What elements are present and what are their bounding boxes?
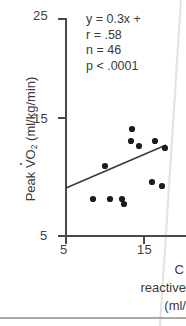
scatter-plot-figure: 25 15 5 5 15 y = 0.3x + r = .58 n = 46 p… — [0, 0, 186, 326]
data-point — [152, 138, 158, 144]
x-axis-title-line-3: (ml/ — [0, 298, 186, 313]
data-point — [128, 138, 134, 144]
page-crease-artifact — [160, 0, 181, 326]
data-point — [102, 163, 108, 169]
annotation-pvalue: p < .0001 — [86, 59, 141, 75]
data-point — [136, 143, 142, 149]
data-point — [162, 145, 168, 151]
y-axis-tick-label-5: 5 — [40, 228, 48, 243]
annotation-sample-size: n = 46 — [86, 43, 141, 59]
annotation-equation: y = 0.3x + — [86, 12, 141, 28]
x-axis-title-line-2: reactive — [0, 280, 186, 295]
data-point — [159, 183, 165, 189]
data-point — [129, 126, 135, 132]
y-axis-tick-label-25: 25 — [33, 8, 48, 23]
data-point-group — [90, 126, 168, 207]
x-axis-tick-label-15: 15 — [137, 242, 152, 257]
y-axis-title: Peak VO2 (ml/kg/min) — [23, 44, 39, 234]
y-axis-title-units: (ml/kg/min) — [23, 77, 38, 145]
data-point — [90, 196, 96, 202]
data-point — [149, 179, 155, 185]
annotation-correlation: r = .58 — [86, 28, 141, 44]
data-point — [107, 196, 113, 202]
y-axis-title-prefix: Peak — [23, 168, 38, 201]
v-dot-icon: V — [23, 159, 38, 168]
x-axis-tick-label-5: 5 — [60, 242, 68, 257]
x-axis-title-line-1: C — [0, 262, 184, 277]
y-axis-title-o: O — [23, 149, 38, 159]
y-axis-title-subscript: 2 — [29, 145, 39, 150]
statistics-annotation: y = 0.3x + r = .58 n = 46 p < .0001 — [86, 12, 141, 74]
data-point — [121, 201, 127, 207]
